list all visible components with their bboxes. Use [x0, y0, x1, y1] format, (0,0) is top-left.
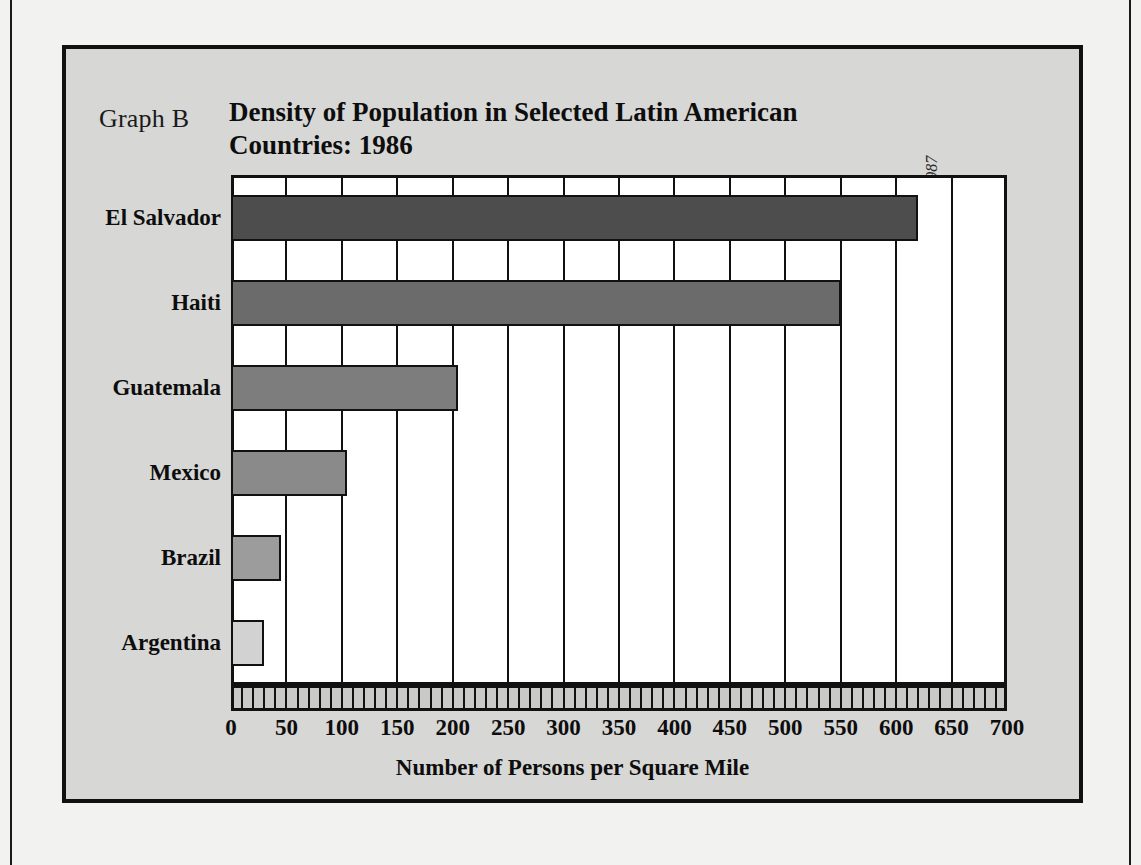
minor-tick — [906, 688, 908, 708]
minor-tick — [396, 688, 398, 708]
minor-tick — [984, 688, 986, 708]
minor-tick — [873, 688, 875, 708]
bar-haiti — [231, 280, 841, 326]
minor-tick — [685, 688, 687, 708]
minor-tick — [751, 688, 753, 708]
x-tick-label: 0 — [225, 715, 237, 741]
minor-tick — [341, 688, 343, 708]
minor-tick — [418, 688, 420, 708]
minor-tick — [651, 688, 653, 708]
minor-tick — [463, 688, 465, 708]
minor-tick — [518, 688, 520, 708]
minor-tick — [452, 688, 454, 708]
minor-tick — [474, 688, 476, 708]
minor-tick — [829, 688, 831, 708]
x-tick-label: 200 — [435, 715, 470, 741]
x-axis-title: Number of Persons per Square Mile — [66, 755, 1079, 781]
minor-tick — [795, 688, 797, 708]
minor-tick — [241, 688, 243, 708]
category-axis-labels: El SalvadorHaitiGuatemalaMexicoBrazilArg… — [81, 175, 221, 685]
category-label-mexico: Mexico — [149, 460, 221, 486]
bar-row — [231, 280, 1007, 326]
bar-row — [231, 195, 1007, 241]
category-label-haiti: Haiti — [171, 290, 221, 316]
minor-tick — [718, 688, 720, 708]
x-axis-ruler-band — [231, 685, 1007, 711]
minor-tick — [274, 688, 276, 708]
category-label-el-salvador: El Salvador — [105, 205, 221, 231]
bars-layer — [231, 175, 1007, 685]
x-tick-label: 400 — [657, 715, 692, 741]
minor-tick — [441, 688, 443, 708]
x-tick-label: 600 — [879, 715, 914, 741]
minor-tick — [529, 688, 531, 708]
minor-tick — [496, 688, 498, 708]
bar-row — [231, 620, 1007, 666]
minor-tick — [263, 688, 265, 708]
category-label-guatemala: Guatemala — [112, 375, 221, 401]
minor-tick — [640, 688, 642, 708]
minor-tick — [551, 688, 553, 708]
minor-tick — [540, 688, 542, 708]
minor-tick — [851, 688, 853, 708]
x-tick-label: 700 — [990, 715, 1025, 741]
minor-tick — [928, 688, 930, 708]
minor-tick — [330, 688, 332, 708]
minor-tick — [884, 688, 886, 708]
x-tick-label: 500 — [768, 715, 803, 741]
minor-tick — [485, 688, 487, 708]
minor-tick — [895, 688, 897, 708]
bar-el-salvador — [231, 195, 918, 241]
category-label-brazil: Brazil — [161, 545, 221, 571]
minor-tick — [618, 688, 620, 708]
bar-brazil — [231, 535, 281, 581]
minor-tick — [951, 688, 953, 708]
minor-tick — [917, 688, 919, 708]
minor-tick — [363, 688, 365, 708]
x-tick-label: 550 — [823, 715, 858, 741]
minor-tick — [973, 688, 975, 708]
minor-tick — [374, 688, 376, 708]
minor-tick — [596, 688, 598, 708]
minor-tick — [319, 688, 321, 708]
category-label-argentina: Argentina — [121, 630, 221, 656]
minor-tick — [696, 688, 698, 708]
bar-row — [231, 365, 1007, 411]
plot-wrapper: El SalvadorHaitiGuatemalaMexicoBrazilArg… — [231, 175, 1007, 685]
minor-tick — [773, 688, 775, 708]
minor-tick — [407, 688, 409, 708]
bar-row — [231, 535, 1007, 581]
figure-frame: Graph B Density of Population in Selecte… — [62, 45, 1083, 803]
minor-tick — [995, 688, 997, 708]
bar-mexico — [231, 450, 347, 496]
chart-title: Density of Population in Selected Latin … — [229, 96, 869, 162]
bar-guatemala — [231, 365, 458, 411]
x-tick-label: 50 — [275, 715, 298, 741]
minor-tick — [297, 688, 299, 708]
minor-tick — [585, 688, 587, 708]
minor-tick — [607, 688, 609, 708]
minor-tick — [673, 688, 675, 708]
minor-tick — [662, 688, 664, 708]
minor-tick — [252, 688, 254, 708]
x-tick-label: 100 — [325, 715, 360, 741]
minor-tick — [563, 688, 565, 708]
minor-tick — [840, 688, 842, 708]
page-rule-left — [10, 0, 12, 865]
x-tick-label: 250 — [491, 715, 526, 741]
x-tick-label: 150 — [380, 715, 415, 741]
x-tick-label: 450 — [713, 715, 748, 741]
x-axis-tick-labels: 0501001502002503003504004505005506006507… — [231, 715, 1007, 749]
minor-tick — [574, 688, 576, 708]
bar-row — [231, 450, 1007, 496]
minor-tick — [962, 688, 964, 708]
minor-tick — [818, 688, 820, 708]
minor-tick — [430, 688, 432, 708]
minor-tick — [707, 688, 709, 708]
minor-tick — [507, 688, 509, 708]
minor-tick — [308, 688, 310, 708]
page-rule-right — [1129, 0, 1131, 865]
minor-tick — [285, 688, 287, 708]
x-tick-label: 650 — [934, 715, 969, 741]
bar-argentina — [231, 620, 264, 666]
